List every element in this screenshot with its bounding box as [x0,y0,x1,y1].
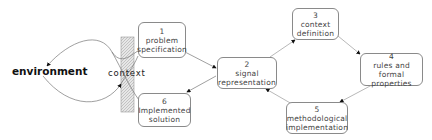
node-3-context-definition: 3 context definition [292,8,339,40]
node-number: 6 [162,97,167,106]
node-number: 3 [313,11,318,20]
node-label: signal [235,69,258,78]
node-label: Implemented [138,106,190,115]
node-1-problem-specification: 1 problem specification [138,22,186,58]
edge-4-5 [340,85,372,102]
node-6-implemented-solution: 6 Implemented solution [138,93,191,127]
node-number: 4 [389,52,394,61]
node-label: representation [218,78,276,87]
edge-2-6 [187,76,216,92]
environment-label: environment [12,65,87,77]
node-label: problem [146,36,178,45]
node-label: properties [371,79,411,88]
node-2-signal-representation: 2 signal representation [217,57,277,89]
node-label: specification [137,45,187,54]
node-label: solution [149,115,180,124]
edge-5-2 [266,89,292,104]
node-5-methodological-implementation: 5 methodological implementation [286,102,348,134]
edge-2-3 [270,40,295,57]
edge-3-4 [338,36,360,54]
node-label: definition [297,29,334,38]
node-number: 1 [160,27,165,36]
node-4-rules-and-formal-properties: 4 rules and formal properties [360,53,423,86]
edge-1-2 [185,52,216,68]
node-number: 2 [245,60,250,69]
node-label: methodological [287,114,348,123]
node-number: 5 [315,105,320,114]
node-label: implementation [286,123,348,132]
context-label: context [108,68,146,78]
edge-environment-to-context [43,76,121,102]
node-label: rules and formal [361,61,422,79]
node-label: context [301,20,331,29]
